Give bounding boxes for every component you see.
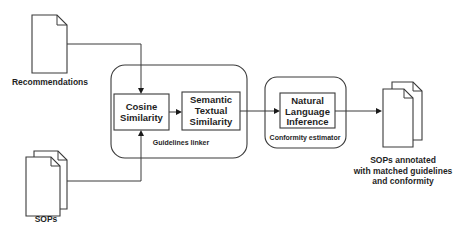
semantic-label-line1: Semantic (190, 94, 232, 105)
cosine-label-line1: Cosine (126, 101, 158, 112)
sops-label: SOPs (35, 214, 58, 224)
guidelines-linker-label: Guidelines linker (153, 139, 210, 146)
arrowhead (376, 108, 382, 114)
nli-label-line2: Language (285, 106, 330, 117)
semantic-label-line2: Textual (195, 105, 228, 116)
output-label-line1: SOPs annotated (370, 155, 436, 165)
output-documents-icon (383, 82, 422, 147)
nli-label-line1: Natural (291, 95, 324, 106)
recommendations-document-icon (32, 15, 67, 73)
output-label-line2: with matched guidelines (353, 166, 453, 176)
diagram-canvas: Cosine Similarity Semantic Textual Simil… (0, 0, 468, 229)
conformity-estimator-label: Conformity estimator (270, 134, 341, 142)
sops-documents-icon (26, 151, 67, 216)
pipeline-diagram: Cosine Similarity Semantic Textual Simil… (0, 0, 468, 229)
recommendations-label: Recommendations (12, 77, 88, 87)
output-label-line3: and conformity (372, 176, 434, 186)
cosine-label-line2: Similarity (120, 112, 163, 123)
nli-label-line3: Inference (286, 116, 328, 127)
semantic-label-line3: Similarity (190, 116, 233, 127)
